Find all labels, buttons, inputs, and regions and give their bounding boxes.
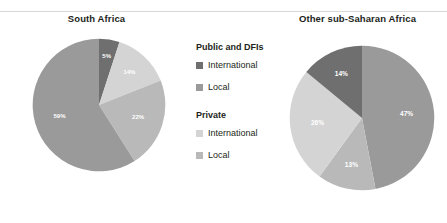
- legend-swatch-icon: [196, 84, 203, 91]
- chart-title-left: South Africa: [0, 13, 193, 24]
- panel-south-africa: South Africa 5%14%22%59%: [0, 0, 193, 223]
- chart-title-right: Other sub-Saharan Africa: [268, 13, 447, 24]
- legend-item-private-local[interactable]: Local: [196, 151, 274, 160]
- legend-group-private: Private International Local: [196, 110, 274, 160]
- pie-svg-right: 47%13%26%14%: [289, 45, 435, 191]
- pie-chart-right: 47%13%26%14%: [289, 45, 435, 191]
- legend-item-public-international[interactable]: International: [196, 61, 274, 70]
- pie-slice-label: 59%: [53, 113, 66, 119]
- legend-swatch-icon: [196, 130, 203, 137]
- pie-chart-figure: South Africa 5%14%22%59% Public and DFIs…: [0, 0, 447, 223]
- pie-slice-label: 13%: [345, 161, 358, 168]
- legend-item-label: Local: [208, 83, 230, 92]
- pie-svg-left: 5%14%22%59%: [32, 38, 166, 172]
- pie-slice-label: 14%: [335, 70, 348, 77]
- pie-slice-label: 22%: [132, 114, 145, 120]
- chart-legend: Public and DFIs International Local Priv…: [196, 42, 274, 173]
- pie-slice-label: 26%: [311, 119, 324, 126]
- legend-group-title-private: Private: [196, 110, 274, 120]
- legend-item-public-local[interactable]: Local: [196, 83, 274, 92]
- legend-item-label: International: [208, 61, 258, 70]
- legend-group-public: Public and DFIs International Local: [196, 42, 274, 92]
- pie-slice-label: 5%: [102, 53, 111, 59]
- pie-chart-left: 5%14%22%59%: [32, 38, 166, 172]
- legend-group-title-public: Public and DFIs: [196, 42, 274, 52]
- legend-swatch-icon: [196, 152, 203, 159]
- legend-item-private-international[interactable]: International: [196, 129, 274, 138]
- pie-slice-label: 47%: [400, 110, 413, 117]
- pie-slice-label: 14%: [123, 69, 136, 75]
- legend-swatch-icon: [196, 62, 203, 69]
- pie-slice[interactable]: [362, 46, 434, 189]
- legend-item-label: Local: [208, 151, 230, 160]
- panel-other-subsaharan-africa: Other sub-Saharan Africa 47%13%26%14%: [268, 0, 447, 223]
- legend-item-label: International: [208, 129, 258, 138]
